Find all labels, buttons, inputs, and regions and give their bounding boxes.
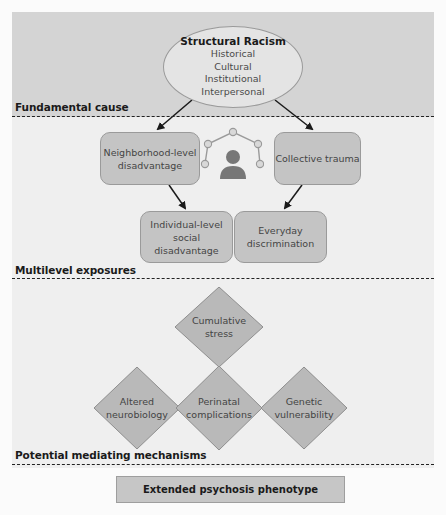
neighborhood-line2: disadvantage (104, 159, 197, 172)
divider-multilevel-exposures (12, 278, 434, 279)
racism-type-cultural: Cultural (164, 61, 302, 74)
racism-type-institutional: Institutional (164, 73, 302, 86)
collective-trauma-label: Collective trauma (275, 152, 359, 165)
perinatal-complications-node: Perinatal complications (176, 366, 262, 450)
genetic-line1: Genetic (274, 395, 333, 408)
collective-trauma-node: Collective trauma (274, 132, 361, 185)
cumulative-stress-node: Cumulative stress (175, 287, 263, 367)
neighborhood-disadvantage-node: Neighborhood-level disadvantage (100, 132, 200, 185)
everyday-line2: discrimination (247, 237, 314, 250)
perinatal-line1: Perinatal (186, 395, 252, 408)
arrow-collective-to-everyday (285, 185, 302, 208)
genetic-line2: vulnerability (274, 408, 333, 421)
racism-type-historical: Historical (164, 48, 302, 61)
structural-racism-title: Structural Racism (164, 35, 302, 48)
person-network-icon (198, 127, 264, 185)
section-label-fundamental-cause: Fundamental cause (15, 101, 129, 113)
arrow-racism-to-neighborhood (158, 100, 192, 129)
altered-line2: neurobiology (106, 408, 168, 421)
altered-neurobiology-node: Altered neurobiology (94, 367, 180, 449)
section-label-multilevel-exposures: Multilevel exposures (15, 264, 136, 276)
racism-type-interpersonal: Interpersonal (164, 86, 302, 99)
divider-fundamental-cause (12, 116, 434, 117)
arrow-racism-to-collective (275, 100, 312, 129)
section-label-mediating-mechanisms: Potential mediating mechanisms (15, 449, 206, 461)
individual-line1: Individual-level (141, 218, 232, 231)
individual-line2: social disadvantage (141, 231, 232, 257)
arrow-neighborhood-to-individual (169, 185, 185, 208)
everyday-line1: Everyday (247, 224, 314, 237)
altered-line1: Altered (106, 395, 168, 408)
everyday-discrimination-node: Everyday discrimination (234, 211, 327, 263)
structural-racism-node: Structural Racism Historical Cultural In… (163, 26, 303, 108)
neighborhood-line1: Neighborhood-level (104, 146, 197, 159)
genetic-vulnerability-node: Genetic vulnerability (261, 367, 347, 449)
cumulative-line2: stress (192, 327, 246, 340)
individual-disadvantage-node: Individual-level social disadvantage (140, 211, 233, 263)
divider-mediating-mechanisms (12, 464, 434, 465)
extended-psychosis-phenotype-node: Extended psychosis phenotype (116, 476, 345, 503)
cumulative-line1: Cumulative (192, 314, 246, 327)
perinatal-line2: complications (186, 408, 252, 421)
